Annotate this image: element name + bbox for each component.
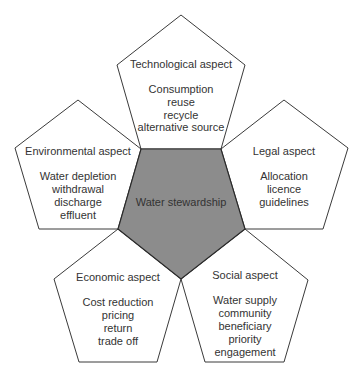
petal-item: Water depletion bbox=[40, 170, 117, 182]
petal-title: Environmental aspect bbox=[25, 145, 131, 157]
petal-item: priority bbox=[228, 333, 262, 345]
petal-item: community bbox=[218, 307, 272, 319]
petal-item: engagement bbox=[214, 346, 275, 358]
petal-item: guidelines bbox=[259, 196, 309, 208]
petal-title: Social aspect bbox=[212, 269, 277, 281]
petal-item: effluent bbox=[60, 209, 96, 221]
center-label: Water stewardship bbox=[136, 196, 227, 208]
legal-text: Legal aspect Allocation licence guidelin… bbox=[253, 145, 315, 208]
petal-item: Cost reduction bbox=[83, 296, 154, 308]
petal-item: reuse bbox=[167, 96, 195, 108]
legal-pentagon bbox=[221, 100, 348, 229]
petal-item: recycle bbox=[164, 109, 199, 121]
petal-item: Allocation bbox=[260, 170, 308, 182]
petal-title: Technological aspect bbox=[130, 58, 232, 70]
petal-title: Legal aspect bbox=[253, 145, 315, 157]
petal-item: withdrawal bbox=[51, 183, 104, 195]
petal-item: Consumption bbox=[149, 83, 214, 95]
petal-item: licence bbox=[267, 183, 301, 195]
petal-item: alternative source bbox=[138, 121, 225, 133]
petal-item: return bbox=[104, 322, 133, 334]
water-stewardship-diagram: Water stewardship Technological aspect C… bbox=[0, 0, 363, 378]
petal-item: beneficiary bbox=[218, 320, 272, 332]
petal-item: pricing bbox=[102, 309, 134, 321]
petal-item: Water supply bbox=[213, 294, 277, 306]
petal-title: Economic aspect bbox=[76, 271, 160, 283]
petal-item: trade off bbox=[98, 335, 139, 347]
petal-item: discharge bbox=[54, 196, 102, 208]
